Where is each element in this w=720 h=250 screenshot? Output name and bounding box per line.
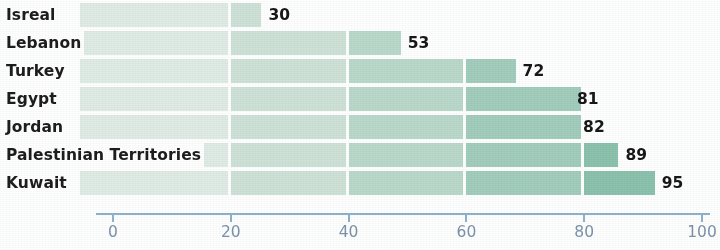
category-label: Turkey: [6, 59, 68, 83]
bar[interactable]: [80, 59, 516, 83]
bar-segment: [349, 59, 464, 83]
bar-row: Palestinian Territories89: [0, 143, 720, 167]
bar[interactable]: [80, 3, 262, 27]
bar-row: Jordan82: [0, 115, 720, 139]
category-label: Palestinian Territories: [6, 143, 204, 167]
bar-row: Egypt81: [0, 87, 720, 111]
x-axis-tick: [112, 213, 114, 222]
bar-segment: [80, 59, 228, 83]
bar-segment: [466, 87, 581, 111]
x-axis-tick: [348, 213, 350, 222]
bar-value-label: 53: [408, 31, 430, 55]
bar-segment: [466, 59, 515, 83]
horizontal-bar-chart: Isreal30Lebanon53Turkey72Egypt81Jordan82…: [0, 0, 720, 250]
bar-segment: [349, 171, 464, 195]
x-axis-tick-label: 60: [457, 223, 477, 241]
bar-value-label: 81: [577, 87, 599, 111]
x-axis-tick-label: 20: [221, 223, 241, 241]
bar[interactable]: [80, 171, 655, 195]
bar-segment: [349, 143, 464, 167]
bar-segment: [349, 115, 464, 139]
bar-row: Lebanon53: [0, 31, 720, 55]
bar[interactable]: [80, 115, 576, 139]
bar-value-label: 95: [662, 171, 684, 195]
bar-segment: [349, 31, 401, 55]
bar-segment: [80, 3, 228, 27]
category-label: Egypt: [6, 87, 60, 111]
bar-segment: [80, 31, 228, 55]
category-label: Isreal: [6, 3, 59, 27]
bar-segment: [231, 3, 262, 27]
category-label: Jordan: [6, 115, 66, 139]
bar[interactable]: [80, 87, 570, 111]
x-axis-tick-label: 80: [574, 223, 594, 241]
bar-segment: [80, 171, 228, 195]
bar-segment: [466, 143, 581, 167]
bar-segment: [80, 115, 228, 139]
bar-value-label: 72: [523, 59, 545, 83]
bar-segment: [231, 87, 346, 111]
x-axis-tick: [701, 213, 703, 222]
bar-segment: [466, 115, 581, 139]
bar-segment: [231, 143, 346, 167]
bar-segment: [349, 87, 464, 111]
x-axis-tick-label: 40: [339, 223, 359, 241]
x-axis-tick-label: 100: [687, 223, 717, 241]
bar-segment: [584, 171, 655, 195]
category-label: Lebanon: [6, 31, 84, 55]
x-axis-tick: [583, 213, 585, 222]
bar-value-label: 30: [269, 3, 291, 27]
x-axis-line: [96, 213, 710, 215]
x-axis-tick: [465, 213, 467, 222]
bar-segment: [231, 115, 346, 139]
bar-row: Turkey72: [0, 59, 720, 83]
bar-value-label: 82: [583, 115, 605, 139]
chart-plot-area: Isreal30Lebanon53Turkey72Egypt81Jordan82…: [0, 0, 720, 205]
x-axis-tick: [230, 213, 232, 222]
bar[interactable]: [80, 31, 401, 55]
category-label: Kuwait: [6, 171, 70, 195]
bar-segment: [231, 171, 346, 195]
bar-segment: [584, 143, 618, 167]
bar-row: Isreal30: [0, 3, 720, 27]
bar-segment: [231, 59, 346, 83]
bar-row: Kuwait95: [0, 171, 720, 195]
bar-segment: [80, 87, 228, 111]
bar-segment: [231, 31, 346, 55]
x-axis: 020406080100: [0, 205, 720, 250]
bar-value-label: 89: [625, 143, 647, 167]
bar-segment: [466, 171, 581, 195]
x-axis-tick-label: 0: [108, 223, 118, 241]
